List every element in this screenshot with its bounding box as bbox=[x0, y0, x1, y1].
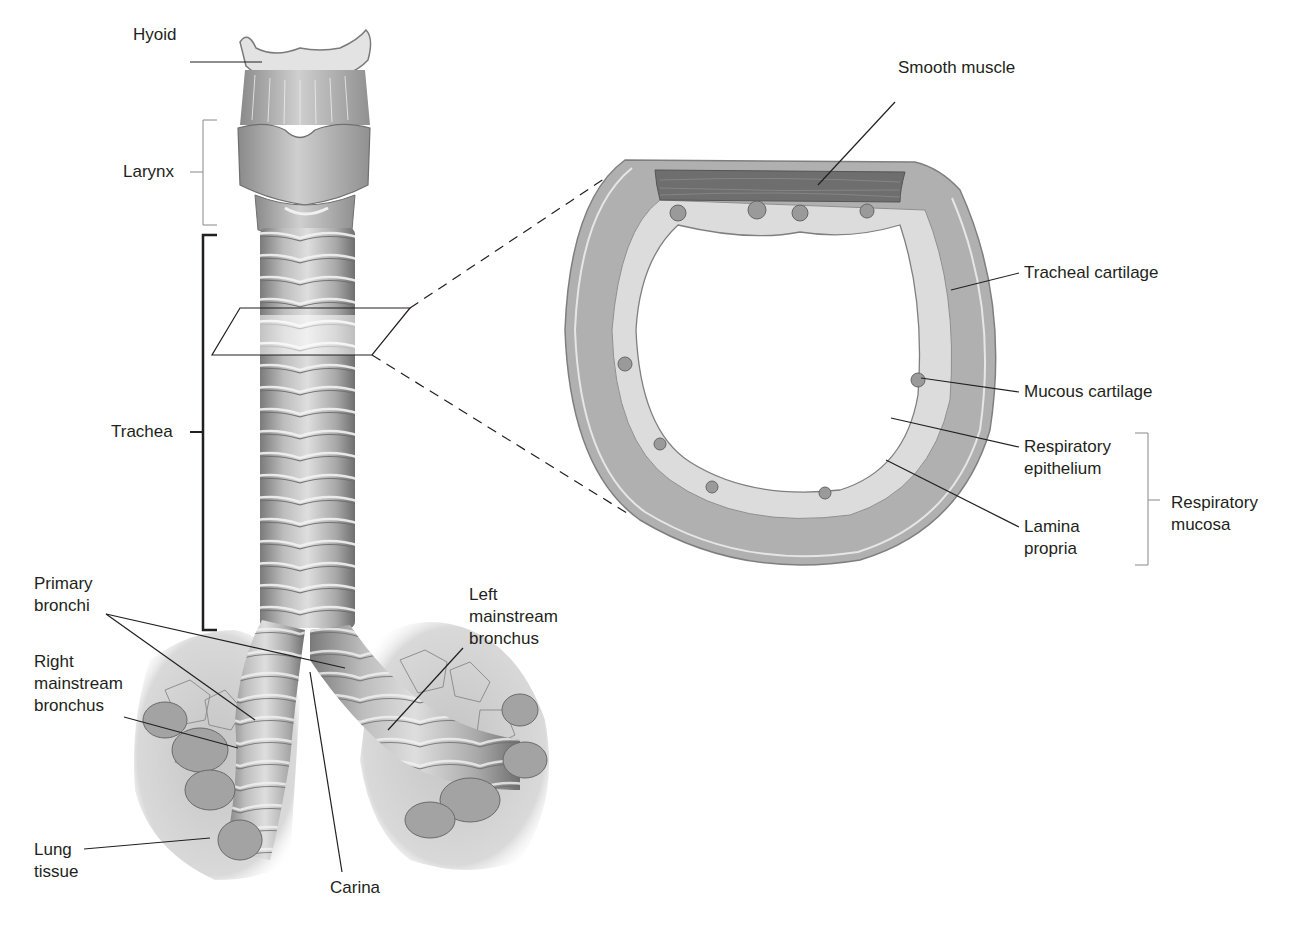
label-carina: Carina bbox=[330, 877, 380, 899]
label-smooth-muscle: Smooth muscle bbox=[898, 57, 1015, 79]
trachea-cross-section bbox=[565, 160, 996, 565]
label-respiratory-epithelium: Respiratory epithelium bbox=[1024, 436, 1111, 480]
label-mucous-cartilage: Mucous cartilage bbox=[1024, 381, 1153, 403]
label-lung-tissue: Lung tissue bbox=[34, 839, 78, 883]
label-lamina-propria: Lamina propria bbox=[1024, 516, 1080, 560]
larynx-bracket bbox=[203, 120, 217, 225]
label-respiratory-mucosa: Respiratory mucosa bbox=[1171, 492, 1258, 536]
trachea-anatomy-figure: Hyoid Larynx Trachea Primary bronchi Rig… bbox=[0, 0, 1305, 930]
label-right-mainstream-bronchus: Right mainstream bronchus bbox=[34, 651, 123, 717]
trachea-bracket bbox=[203, 235, 217, 630]
label-tracheal-cartilage: Tracheal cartilage bbox=[1024, 262, 1159, 284]
label-primary-bronchi: Primary bronchi bbox=[34, 573, 93, 617]
label-larynx: Larynx bbox=[123, 161, 174, 183]
label-hyoid: Hyoid bbox=[133, 24, 176, 46]
label-left-mainstream-bronchus: Left mainstream bronchus bbox=[469, 584, 558, 650]
thyroid-cartilage bbox=[238, 124, 370, 205]
label-trachea: Trachea bbox=[111, 421, 173, 443]
thyrohyoid-membrane bbox=[240, 70, 370, 125]
respiratory-mucosa-bracket bbox=[1135, 433, 1148, 565]
